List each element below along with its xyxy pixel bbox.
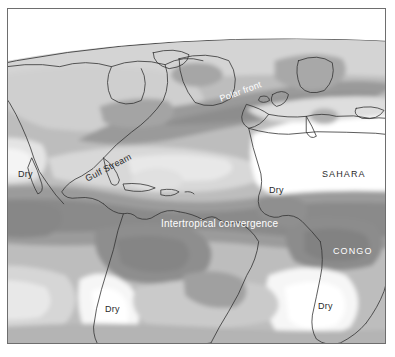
- precipitation-shading: [8, 23, 385, 343]
- shade-scandinavia-wet: [275, 54, 346, 90]
- precipitation-map-figure: Polar front Gulf Stream Intertropical co…: [0, 0, 395, 357]
- map-canvas: [8, 9, 385, 343]
- map-frame-border: Polar front Gulf Stream Intertropical co…: [7, 8, 386, 344]
- globe-disc: [8, 23, 385, 343]
- shade-caribbean-light: [131, 168, 183, 192]
- shade-namib-core: [285, 282, 346, 329]
- shade-atlas-spot: [310, 108, 338, 124]
- shade-congo-core: [304, 228, 369, 261]
